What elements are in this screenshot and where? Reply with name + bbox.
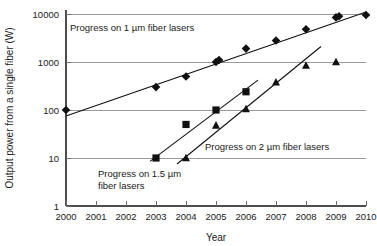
x-tick-label-2003: 2003: [145, 211, 166, 222]
x-tick-label-2009: 2009: [325, 211, 346, 222]
y-tick-label-1000: 1000: [38, 57, 59, 68]
data-point-triangle-2005-48: [212, 121, 220, 129]
annot-2um: Progress on 2 µm fiber lasers: [205, 141, 330, 152]
data-markers-group: [62, 11, 371, 162]
y-axis-tick-labels: 110100100010000: [33, 9, 59, 212]
log-scatter-chart: 2000200120022003200420052006200720082009…: [0, 0, 377, 246]
data-point-triangle-2007-380: [272, 78, 280, 86]
x-tick-label-2008: 2008: [295, 211, 316, 222]
x-tick-label-2007: 2007: [265, 211, 286, 222]
gridlines-group: [66, 14, 366, 158]
y-tick-label-10: 10: [48, 153, 59, 164]
annotations-group: Progress on 1 µm fiber lasersProgress on…: [70, 22, 330, 191]
data-point-diamond-2007-2800: [272, 36, 281, 45]
chart-container: 2000200120022003200420052006200720082009…: [0, 0, 377, 246]
data-point-square-2005-100: [212, 106, 219, 113]
data-point-square-2004-50: [182, 121, 189, 128]
y-tick-label-100: 100: [43, 105, 59, 116]
x-tick-label-2004: 2004: [175, 211, 196, 222]
x-tick-label-2002: 2002: [115, 211, 136, 222]
data-point-square-2003-10: [152, 154, 159, 161]
data-point-diamond-2000-100: [62, 106, 71, 115]
x-axis-tick-labels: 2000200120022003200420052006200720082009…: [55, 211, 376, 222]
data-point-diamond-2006-1900: [242, 44, 251, 53]
annot-15um-line1: Progress on 1.5 µm: [98, 168, 181, 179]
annot-15um-line2: fiber lasers: [98, 180, 145, 191]
x-axis-tickmarks: [66, 201, 366, 206]
x-tick-label-2000: 2000: [55, 211, 76, 222]
annot-1um: Progress on 1 µm fiber lasers: [70, 22, 195, 33]
y-tick-label-1: 1: [54, 201, 59, 212]
y-axis-title: Output power from a single fiber (W): [4, 27, 15, 188]
data-point-square-2006-240: [242, 88, 249, 95]
x-tick-label-2006: 2006: [235, 211, 256, 222]
data-point-diamond-2010-9500: [362, 11, 371, 20]
x-tick-label-2001: 2001: [85, 211, 106, 222]
y-tick-label-10000: 10000: [33, 9, 59, 20]
x-tick-label-2010: 2010: [355, 211, 376, 222]
x-axis-title: Year: [206, 232, 227, 243]
x-tick-label-2005: 2005: [205, 211, 226, 222]
